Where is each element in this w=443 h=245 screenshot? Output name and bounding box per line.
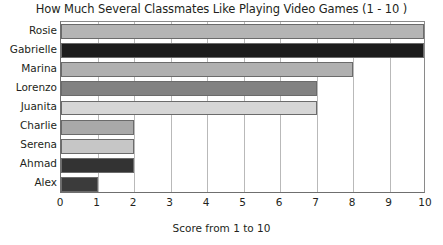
- y-axis-labels: RosieGabrielleMarinaLorenzoJuanitaCharli…: [0, 21, 57, 193]
- y-axis-label-gabrielle: Gabrielle: [0, 43, 57, 55]
- x-axis-tick-3: 3: [158, 196, 182, 208]
- x-axis-tick-0: 0: [48, 196, 72, 208]
- x-axis-tick-1: 1: [85, 196, 109, 208]
- x-axis-tick-4: 4: [194, 196, 218, 208]
- x-axis-tick-9: 9: [377, 196, 401, 208]
- plot-area: [60, 21, 425, 193]
- x-axis-tick-8: 8: [340, 196, 364, 208]
- bar-serena: [61, 139, 134, 154]
- bar-row: [61, 24, 424, 39]
- bar-chart: How Much Several Classmates Like Playing…: [0, 0, 443, 245]
- y-axis-label-serena: Serena: [0, 138, 57, 150]
- chart-title: How Much Several Classmates Like Playing…: [0, 2, 443, 16]
- bar-juanita: [61, 101, 317, 116]
- y-axis-label-rosie: Rosie: [0, 24, 57, 36]
- bar-series: [61, 22, 424, 192]
- y-axis-label-marina: Marina: [0, 62, 57, 74]
- bar-alex: [61, 177, 98, 192]
- bar-row: [61, 139, 424, 154]
- x-axis-tick-7: 7: [304, 196, 328, 208]
- bar-row: [61, 101, 424, 116]
- bar-charlie: [61, 120, 134, 135]
- y-axis-label-alex: Alex: [0, 176, 57, 188]
- y-axis-label-ahmad: Ahmad: [0, 157, 57, 169]
- x-axis-tick-5: 5: [231, 196, 255, 208]
- bar-row: [61, 62, 424, 77]
- bar-marina: [61, 62, 353, 77]
- y-axis-label-juanita: Juanita: [0, 100, 57, 112]
- x-axis-tick-6: 6: [267, 196, 291, 208]
- x-axis-tick-10: 10: [413, 196, 437, 208]
- bar-row: [61, 177, 424, 192]
- y-axis-label-charlie: Charlie: [0, 119, 57, 131]
- bar-rosie: [61, 24, 424, 39]
- bar-row: [61, 43, 424, 58]
- bar-lorenzo: [61, 81, 317, 96]
- bar-gabrielle: [61, 43, 424, 58]
- x-axis-tick-labels: 012345678910: [0, 196, 443, 212]
- y-axis-label-lorenzo: Lorenzo: [0, 81, 57, 93]
- bar-ahmad: [61, 158, 134, 173]
- x-axis-title: Score from 1 to 10: [0, 222, 443, 234]
- bar-row: [61, 120, 424, 135]
- bar-row: [61, 81, 424, 96]
- x-axis-tick-2: 2: [121, 196, 145, 208]
- bar-row: [61, 158, 424, 173]
